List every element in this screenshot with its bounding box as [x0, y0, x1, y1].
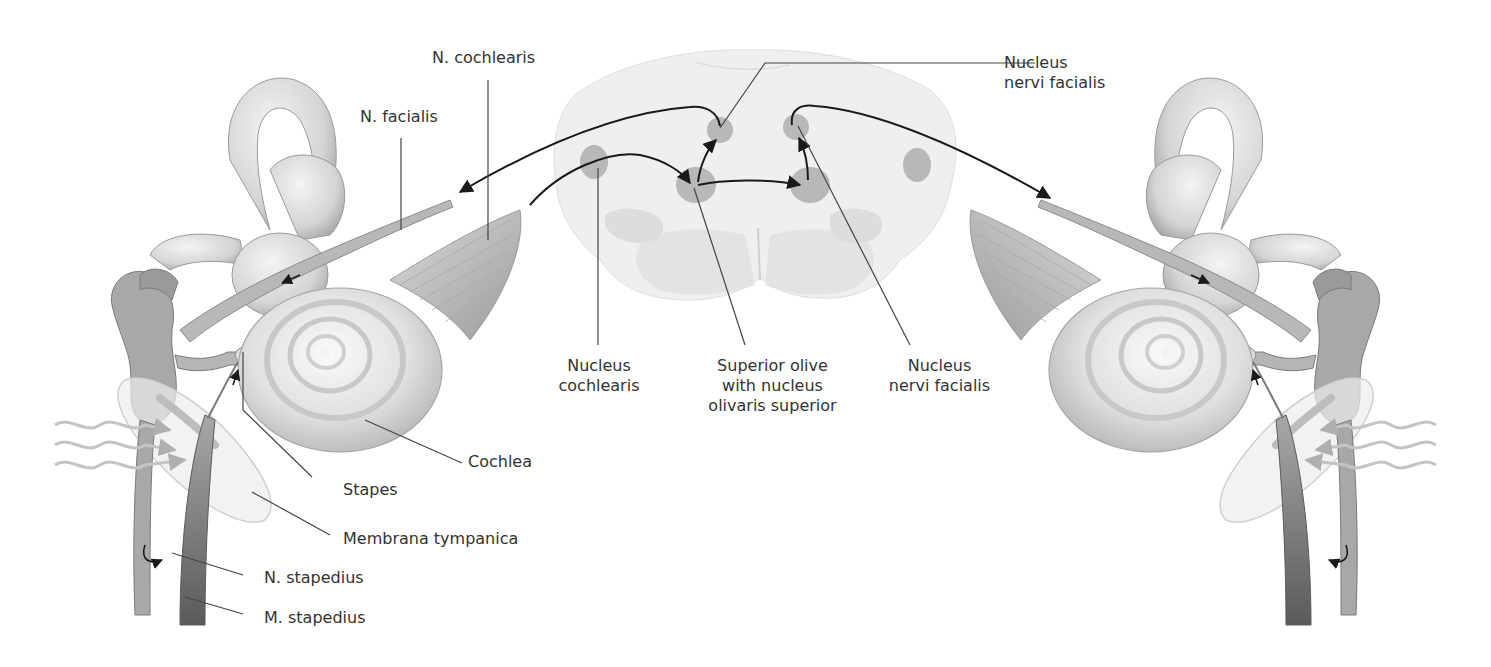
label-line: Nucleus — [882, 356, 997, 376]
label-membrana-tympanica: Membrana tympanica — [343, 529, 518, 549]
label-line: nervi facialis — [1004, 73, 1105, 93]
label-nucleus-cochlearis: Nucleus cochlearis — [554, 356, 644, 396]
label-line: with nucleus — [700, 376, 845, 396]
nucleus-nervi-facialis-left-shape — [707, 117, 733, 143]
label-superior-olive: Superior olive with nucleus olivaris sup… — [700, 356, 845, 416]
label-stapes: Stapes — [343, 480, 398, 500]
label-nucleus-nervi-facialis-bottom: Nucleus nervi facialis — [882, 356, 997, 396]
label-line: Nucleus — [1004, 53, 1105, 73]
brainstem-cross-section — [554, 50, 956, 300]
diagram-canvas — [0, 0, 1491, 667]
label-nucleus-nervi-facialis-top: Nucleus nervi facialis — [1004, 53, 1105, 93]
label-m-stapedius: M. stapedius — [264, 608, 365, 628]
nucleus-cochlearis-right-shape — [903, 148, 931, 182]
label-n-stapedius: N. stapedius — [264, 568, 364, 588]
nucleus-nervi-facialis-right-shape — [783, 114, 809, 140]
stapedius-reflex-diagram: N. cochlearis N. facialis Nucleus nervi … — [0, 0, 1491, 667]
label-line: cochlearis — [554, 376, 644, 396]
label-n-cochlearis: N. cochlearis — [432, 48, 535, 68]
label-n-facialis: N. facialis — [360, 107, 438, 127]
label-cochlea: Cochlea — [468, 452, 532, 472]
superior-olive-left-shape — [676, 167, 716, 203]
right-ear-illustration — [970, 78, 1436, 625]
label-line: Superior olive — [700, 356, 845, 376]
label-line: nervi facialis — [882, 376, 997, 396]
label-line: Nucleus — [554, 356, 644, 376]
label-line: olivaris superior — [700, 396, 845, 416]
